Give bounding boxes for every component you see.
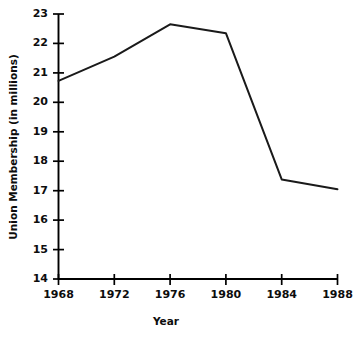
- y-tick-label-19: 19: [33, 125, 48, 138]
- y-axis-title: Union Membership (in millions): [7, 54, 19, 239]
- y-tick-label-17: 17: [33, 184, 48, 197]
- y-tick-label-21: 21: [33, 66, 48, 79]
- y-tick-label-18: 18: [33, 154, 48, 167]
- y-tick-label-20: 20: [33, 95, 49, 108]
- y-tick-label-22: 22: [33, 36, 48, 49]
- x-axis-title: Year: [152, 315, 180, 327]
- x-tick-label-1968: 1968: [43, 288, 74, 301]
- x-tick-label-1984: 1984: [266, 288, 297, 301]
- y-tick-label-16: 16: [33, 213, 49, 226]
- x-tick-label-1988: 1988: [322, 288, 353, 301]
- x-tick-label-1972: 1972: [99, 288, 130, 301]
- y-tick-label-14: 14: [33, 272, 49, 285]
- y-tick-label-15: 15: [33, 243, 48, 256]
- chart-canvas: 14 15 16 17 18 19 20 21 22 23 1968 1972 …: [0, 0, 355, 345]
- line-chart-figure: 14 15 16 17 18 19 20 21 22 23 1968 1972 …: [0, 0, 355, 345]
- x-tick-label-1980: 1980: [211, 288, 242, 301]
- y-tick-label-23: 23: [33, 7, 48, 20]
- x-tick-label-1976: 1976: [155, 288, 186, 301]
